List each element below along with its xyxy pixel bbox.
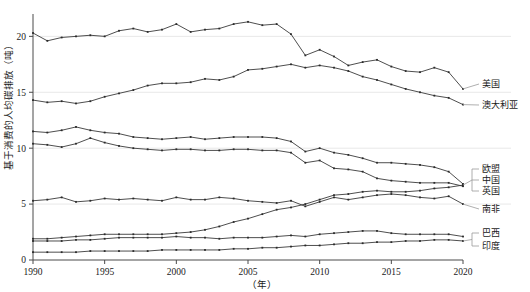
data-point — [433, 239, 435, 241]
x-tick-label-2000: 2000 — [167, 267, 186, 277]
data-point — [319, 160, 321, 162]
data-point — [233, 76, 235, 78]
data-point — [390, 84, 392, 86]
legend-label-欧盟: 欧盟 — [482, 163, 500, 174]
data-point — [333, 56, 335, 58]
data-point — [433, 188, 435, 190]
data-point — [161, 150, 163, 152]
data-point — [132, 147, 134, 149]
data-point — [190, 31, 192, 33]
x-axis: 1990199520002005201020152020 — [24, 260, 473, 277]
data-point — [118, 92, 120, 94]
data-point — [204, 237, 206, 239]
data-point — [118, 30, 120, 32]
data-point — [376, 190, 378, 192]
data-point — [390, 193, 392, 195]
data-point — [304, 205, 306, 207]
data-point — [261, 24, 263, 26]
data-point — [32, 32, 34, 34]
data-point — [419, 190, 421, 192]
data-point — [161, 249, 163, 251]
data-point — [46, 238, 48, 240]
data-point — [405, 88, 407, 90]
data-point — [261, 237, 263, 239]
data-point — [89, 129, 91, 131]
data-point — [132, 198, 134, 200]
data-point — [75, 251, 77, 253]
data-point — [132, 89, 134, 91]
data-point — [61, 240, 63, 242]
data-point — [362, 171, 364, 173]
data-point — [75, 35, 77, 37]
data-point — [61, 37, 63, 39]
data-point — [175, 232, 177, 234]
data-point — [261, 201, 263, 203]
data-point — [304, 203, 306, 205]
data-point — [347, 154, 349, 156]
data-point — [290, 200, 292, 202]
data-point — [233, 221, 235, 223]
data-point — [175, 236, 177, 238]
data-point — [376, 162, 378, 164]
data-point — [347, 70, 349, 72]
legend-label-中国: 中国 — [482, 174, 500, 185]
data-point — [362, 157, 364, 159]
data-point — [319, 233, 321, 235]
data-point — [405, 70, 407, 72]
data-point — [376, 230, 378, 232]
data-point — [448, 182, 450, 184]
data-point — [75, 201, 77, 203]
data-point — [290, 235, 292, 237]
data-point — [32, 251, 34, 253]
data-point — [261, 247, 263, 249]
data-point — [61, 146, 63, 148]
series-line-7 — [33, 240, 463, 252]
legend-label-美国: 美国 — [482, 78, 500, 89]
data-point — [448, 233, 450, 235]
data-point — [419, 196, 421, 198]
data-point — [247, 148, 249, 150]
data-point — [218, 79, 220, 81]
data-point — [147, 137, 149, 139]
data-point — [419, 71, 421, 73]
data-point — [147, 31, 149, 33]
data-point — [247, 21, 249, 23]
data-point — [276, 137, 278, 139]
data-point — [362, 191, 364, 193]
data-point — [448, 186, 450, 188]
data-point — [419, 233, 421, 235]
data-point — [147, 233, 149, 235]
data-point — [46, 144, 48, 146]
data-point — [304, 162, 306, 164]
legend-leader-美国 — [463, 84, 479, 89]
data-point — [104, 35, 106, 37]
data-point — [147, 199, 149, 201]
x-tick-label-1995: 1995 — [95, 267, 114, 277]
data-point — [405, 233, 407, 235]
data-point — [147, 237, 149, 239]
y-tick-label-0: 0 — [21, 255, 26, 265]
y-axis-title: 基于消费的人均碳排放（吨） — [3, 40, 14, 170]
data-point — [161, 82, 163, 84]
data-point — [333, 232, 335, 234]
data-point — [118, 145, 120, 147]
data-point — [89, 200, 91, 202]
data-point — [319, 49, 321, 51]
data-point — [233, 23, 235, 25]
data-point — [261, 213, 263, 215]
data-point — [276, 247, 278, 249]
data-point — [132, 136, 134, 138]
data-point — [362, 230, 364, 232]
data-point — [433, 198, 435, 200]
data-point — [247, 69, 249, 71]
data-point — [190, 249, 192, 251]
data-point — [204, 199, 206, 201]
x-tick-label-2015: 2015 — [382, 267, 401, 277]
data-point — [190, 199, 192, 201]
data-point — [218, 196, 220, 198]
data-point — [175, 137, 177, 139]
data-point — [405, 194, 407, 196]
data-point — [61, 129, 63, 131]
data-point — [161, 29, 163, 31]
data-point — [61, 251, 63, 253]
